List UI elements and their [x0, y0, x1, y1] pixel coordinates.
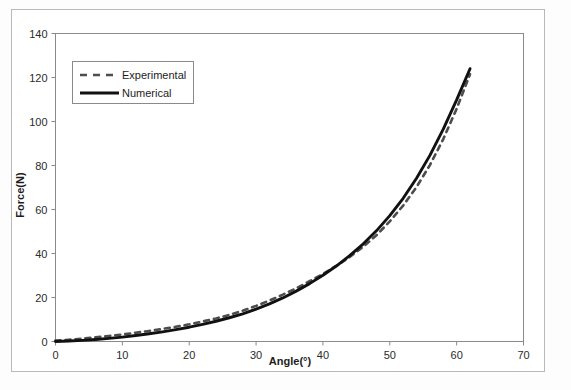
chart-plot-area: 020406080100120140 010203040506070 Force… — [0, 0, 571, 390]
y-tick-label: 100 — [29, 116, 47, 128]
y-tick-label: 120 — [29, 72, 47, 84]
figure-container: 020406080100120140 010203040506070 Force… — [0, 0, 571, 390]
x-tick-label: 10 — [116, 349, 128, 361]
x-tick-label: 60 — [451, 349, 463, 361]
y-axis-title: Force(N) — [14, 172, 26, 218]
x-tick-label: 40 — [317, 349, 329, 361]
legend-label-numerical: Numerical — [122, 87, 172, 99]
y-tick-label: 40 — [35, 248, 47, 260]
x-tick-label: 30 — [250, 349, 262, 361]
force-vs-angle-line-chart: 020406080100120140 010203040506070 Force… — [0, 0, 571, 390]
y-tick-label: 140 — [29, 28, 47, 40]
y-axis: 020406080100120140 — [29, 28, 55, 348]
legend-label-experimental: Experimental — [122, 69, 186, 81]
x-axis-title: Angle(°) — [269, 355, 312, 367]
x-tick-label: 70 — [517, 349, 529, 361]
y-tick-label: 0 — [41, 336, 47, 348]
y-tick-label: 80 — [35, 160, 47, 172]
chart-legend: Experimental Numerical — [73, 62, 194, 104]
x-tick-label: 20 — [183, 349, 195, 361]
x-tick-label: 0 — [52, 349, 58, 361]
y-tick-label: 60 — [35, 204, 47, 216]
y-tick-label: 20 — [35, 292, 47, 304]
x-tick-label: 50 — [384, 349, 396, 361]
